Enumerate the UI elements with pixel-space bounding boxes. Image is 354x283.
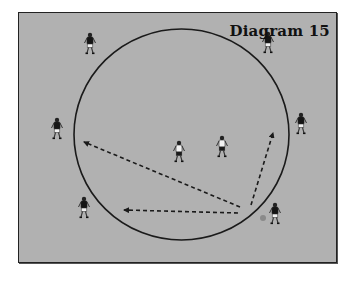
diagram-canvas [0,0,354,283]
player-p-bottom-left [79,197,90,218]
player-p-top-left [85,33,96,54]
arrow-pass-left-long [84,142,240,207]
players [52,32,307,224]
player-p-right [296,113,307,134]
diagram-title: Diagram 15 [229,22,330,40]
arrow-pass-left-short [124,210,238,213]
player-p-center-right [217,136,228,157]
center-circle [74,29,289,240]
player-p-left [52,118,63,139]
player-p-center [174,141,185,162]
ball [260,215,266,221]
player-p-bottom-right [270,203,281,224]
